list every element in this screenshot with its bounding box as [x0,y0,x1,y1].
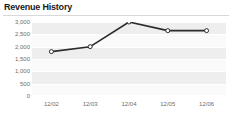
x-tick-label: 12/04 [112,100,146,108]
plot-area [32,22,226,96]
x-tick-label: 12/06 [190,100,224,108]
y-tick-label: 2,000 [0,44,30,50]
chart-area: 3,0002,5002,0001,5001,0005000 12/0212/03… [0,18,232,115]
data-point-marker[interactable] [49,50,53,54]
data-point-marker[interactable] [127,22,131,24]
revenue-history-widget: Revenue History 3,0002,5002,0001,5001,00… [0,0,232,115]
data-point-marker[interactable] [205,29,209,33]
series-line [51,22,206,52]
x-tick-label: 12/05 [151,100,185,108]
y-axis-tick-labels: 3,0002,5002,0001,5001,0005000 [0,22,30,96]
x-tick-label: 12/02 [34,100,68,108]
data-point-marker[interactable] [88,45,92,49]
page-title: Revenue History [4,2,72,13]
data-point-marker[interactable] [166,29,170,33]
y-tick-label: 500 [0,81,30,87]
x-axis-tick-labels: 12/0212/0312/0412/0512/06 [32,100,226,112]
title-divider [3,15,229,16]
x-tick-label: 12/03 [73,100,107,108]
y-tick-label: 2,500 [0,31,30,37]
y-tick-label: 3,000 [0,19,30,25]
line-series [32,22,226,96]
y-tick-label: 0 [0,93,30,99]
y-tick-label: 1,000 [0,68,30,74]
y-tick-label: 1,500 [0,56,30,62]
widget-header: Revenue History [0,0,232,18]
